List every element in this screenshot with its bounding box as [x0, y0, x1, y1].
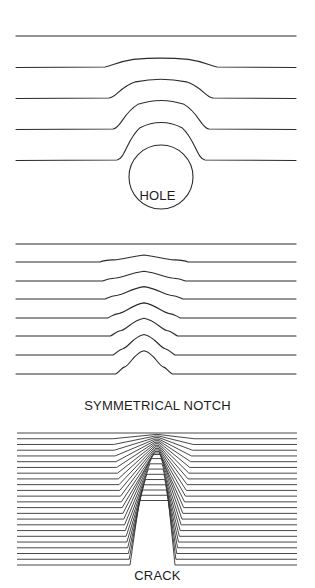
crack-diagram	[0, 415, 315, 575]
notch-flow-line	[16, 351, 296, 374]
crack-flow-line	[17, 490, 297, 554]
hole-flow-line	[16, 58, 296, 67]
crack-flow-line	[17, 435, 297, 439]
crack-flow-line	[17, 480, 297, 542]
notch-flow-line	[16, 335, 296, 356]
crack-flow-line	[17, 453, 297, 508]
crack-flow-line	[17, 485, 297, 548]
notch-flow-lines	[16, 244, 296, 374]
hole-flow-lines	[16, 36, 296, 161]
hole-label: HOLE	[0, 188, 315, 203]
crack-flow-lines	[17, 433, 297, 565]
notch-label: SYMMETRICAL NOTCH	[0, 398, 315, 413]
hole-flow-line	[16, 79, 296, 98]
hole-flow-line	[16, 100, 296, 129]
crack-flow-line	[17, 501, 297, 566]
notch-flow-line	[16, 303, 296, 318]
hole-diagram	[0, 20, 315, 240]
crack-flow-line	[17, 469, 297, 530]
notch-flow-line	[16, 318, 296, 336]
notch-flow-line	[16, 287, 296, 299]
crack-flow-line	[17, 495, 297, 559]
crack-flow-line	[17, 474, 297, 536]
notch-flow-line	[16, 255, 296, 262]
notch-flow-line	[16, 271, 296, 281]
crack-label: CRACK	[0, 568, 315, 583]
hole-flow-line	[16, 123, 296, 161]
notch-diagram	[0, 235, 315, 385]
crack-flow-line	[17, 455, 297, 514]
